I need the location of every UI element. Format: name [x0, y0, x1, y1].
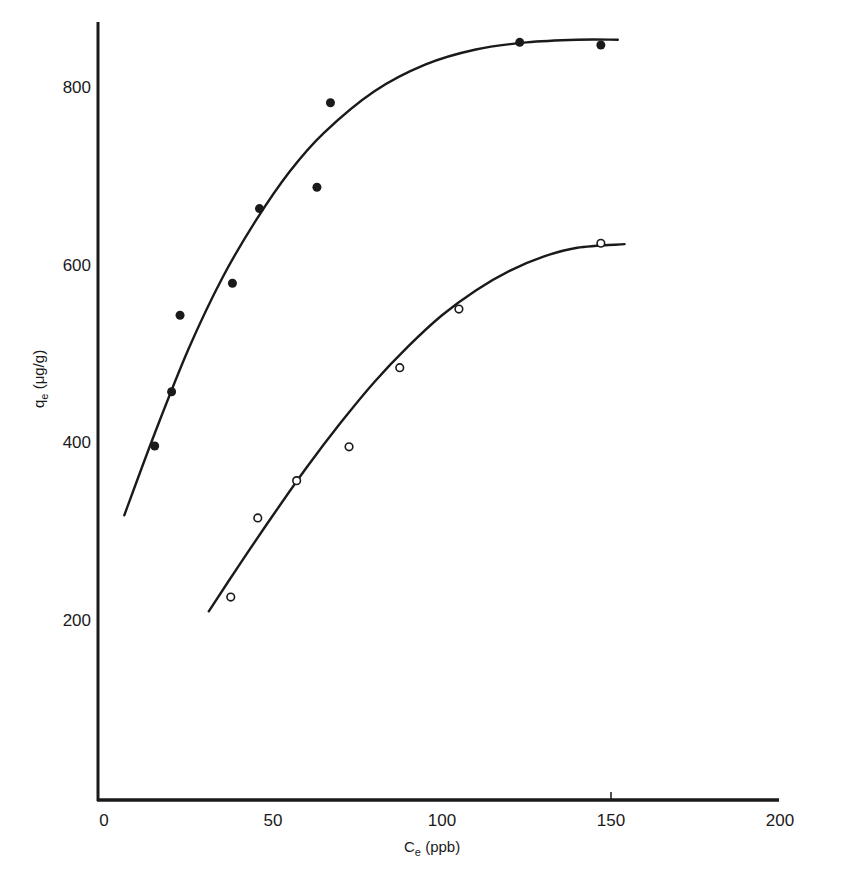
point-open [293, 477, 301, 485]
y-tick-label: 800 [63, 78, 91, 97]
point-filled [228, 279, 237, 288]
x-tick-label: 0 [99, 811, 108, 830]
x-tick-label: 100 [428, 811, 456, 830]
x-tick-label: 150 [597, 811, 625, 830]
y-tick-label: 200 [63, 611, 91, 630]
y-tick-label: 400 [63, 433, 91, 452]
point-open [254, 514, 262, 522]
tick-labels: 050100150200200400600800 [63, 78, 795, 830]
point-open [345, 443, 353, 451]
point-open [597, 239, 605, 247]
axes [97, 22, 779, 801]
point-open [455, 305, 463, 313]
point-filled [255, 204, 264, 213]
point-filled [176, 311, 185, 320]
point-open [396, 364, 404, 372]
y-axis-title: qe (μg/g) [30, 350, 50, 408]
x-tick-label: 200 [766, 811, 794, 830]
point-filled [312, 183, 321, 192]
x-axis-title: Ce (ppb) [404, 838, 460, 858]
data-points [150, 38, 605, 601]
fit-curves [124, 39, 624, 611]
point-filled [150, 441, 159, 450]
point-filled [596, 41, 605, 50]
fit-curve-filled [124, 39, 617, 515]
point-filled [515, 38, 524, 47]
point-open [227, 593, 235, 601]
x-tick-label: 50 [264, 811, 283, 830]
y-tick-label: 600 [63, 256, 91, 275]
point-filled [167, 387, 176, 396]
point-filled [326, 98, 335, 107]
fit-curve-open [209, 244, 625, 611]
adsorption-isotherm-chart: 050100150200200400600800 Ce (ppb) qe (μg… [0, 0, 864, 893]
